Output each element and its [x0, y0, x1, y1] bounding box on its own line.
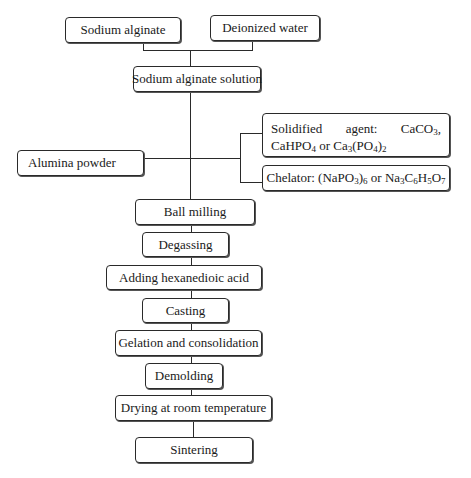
- step-demolding: Demolding: [145, 363, 223, 389]
- connector-alumina-additives: [144, 158, 240, 159]
- node-label: Sodium alginate solution: [132, 71, 262, 87]
- step-label: Sintering: [170, 442, 218, 458]
- step-adding-hexanedioic-acid: Adding hexanedioic acid: [106, 265, 262, 290]
- step-label: Adding hexanedioic acid: [119, 270, 249, 286]
- connector-step-2-3: [191, 257, 192, 265]
- node-alumina-powder: Alumina powder: [17, 150, 144, 176]
- node-label: Deionized water: [222, 20, 308, 36]
- node-label: Sodium alginate: [81, 22, 166, 38]
- step-label: Degassing: [158, 237, 212, 253]
- connector-step-5-6: [191, 356, 192, 363]
- node-solidified-agent: Solidified agent: CaCO3, CaHPO4 or Ca3(P…: [262, 113, 450, 157]
- connector-additives-bracket: [240, 133, 241, 183]
- step-label: Ball milling: [164, 204, 226, 220]
- connector-to-solidified-agent: [240, 133, 262, 134]
- connector-step-3-4: [191, 290, 192, 298]
- node-label: Alumina powder: [28, 155, 116, 171]
- step-ball-milling: Ball milling: [135, 199, 255, 225]
- connector-step-7-8: [193, 421, 194, 437]
- connector-main-trunk: [190, 92, 191, 199]
- node-deionized-water: Deionized water: [210, 15, 320, 41]
- connector-input-merge: [143, 50, 253, 51]
- node-sodium-alginate: Sodium alginate: [65, 17, 181, 43]
- node-label: Chelator: (NaPO3)6 or Na3C6H5O7: [266, 170, 445, 186]
- step-sintering: Sintering: [135, 437, 253, 463]
- connector-merge-to-solution: [190, 50, 191, 66]
- step-drying-at-room-temperature: Drying at room temperature: [115, 395, 272, 421]
- node-sodium-alginate-solution: Sodium alginate solution: [133, 66, 261, 92]
- step-label: Casting: [166, 303, 206, 319]
- node-chelator: Chelator: (NaPO3)6 or Na3C6H5O7: [262, 165, 450, 191]
- step-label: Gelation and consolidation: [118, 335, 258, 351]
- step-casting: Casting: [142, 298, 229, 323]
- step-degassing: Degassing: [142, 232, 229, 257]
- node-label: Solidified agent: CaCO3, CaHPO4 or Ca3(P…: [271, 121, 441, 153]
- step-gelation-and-consolidation: Gelation and consolidation: [115, 330, 262, 356]
- connector-step-1-2: [191, 225, 192, 232]
- connector-step-4-5: [191, 323, 192, 330]
- connector-to-chelator: [240, 182, 262, 183]
- step-label: Drying at room temperature: [121, 400, 266, 416]
- step-label: Demolding: [155, 368, 214, 384]
